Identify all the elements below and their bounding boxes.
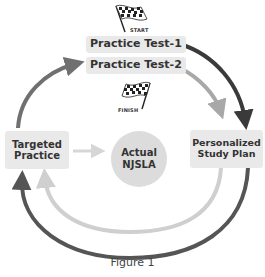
arrow-targeted-to-test2 [18, 64, 75, 128]
node-actual-njsla: Actual NJSLA [111, 131, 167, 187]
node-targeted-practice: Targeted Practice [5, 131, 69, 169]
actual-line1: Actual [121, 147, 157, 159]
finish-flag-icon [120, 80, 160, 110]
arrow-test1-to-plan [180, 44, 245, 120]
node-practice-test-1: Practice Test-1 [86, 36, 186, 53]
plan-line2: Study Plan [190, 149, 263, 160]
node-personalized-study-plan: Personalized Study Plan [190, 130, 263, 168]
finish-label: FINISH [118, 107, 138, 113]
figure-caption: Figure 1 [0, 256, 265, 269]
arrow-test2-to-plan [180, 68, 220, 110]
start-label: START [130, 27, 149, 33]
targeted-line2: Practice [5, 150, 69, 162]
node-practice-test-2: Practice Test-2 [86, 57, 186, 74]
targeted-line1: Targeted [5, 139, 69, 151]
actual-line2: NJSLA [121, 159, 157, 171]
